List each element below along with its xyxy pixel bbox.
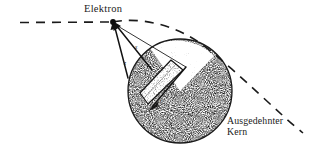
nucleus-label-line1: Ausgedehnter bbox=[227, 115, 283, 126]
axis-label-z: z bbox=[124, 60, 126, 66]
nucleus-label-line2: Kern bbox=[227, 127, 283, 138]
nucleus-label: Ausgedehnter Kern bbox=[227, 116, 283, 137]
trajectory-incoming bbox=[20, 22, 113, 23]
electron-point bbox=[110, 19, 116, 25]
axis-label-r: r bbox=[160, 98, 162, 104]
axis-label-x: x bbox=[135, 44, 137, 50]
vector-arrow-x-shaft bbox=[116, 25, 152, 70]
electron-label: Elektron bbox=[84, 3, 122, 14]
figure-canvas: Elektron Ausgedehnter Kern x z r bbox=[0, 0, 318, 157]
